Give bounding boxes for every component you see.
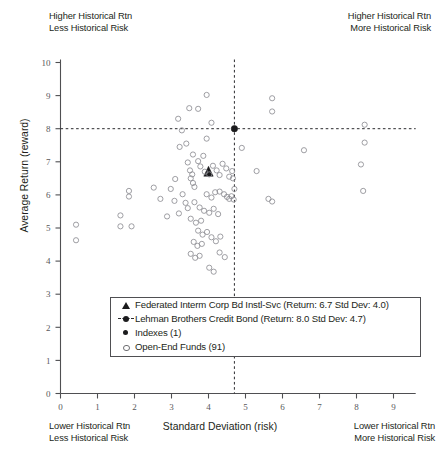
scatter-chart: Higher Historical Rtn Less Historical Ri…: [0, 0, 439, 463]
svg-text:3: 3: [46, 289, 51, 299]
svg-text:0: 0: [58, 402, 63, 412]
svg-text:5: 5: [243, 402, 248, 412]
legend: Federated Interm Corp Bd Instl-Svc (Retu…: [110, 297, 421, 357]
legend-item-label: Indexes (1): [135, 326, 181, 340]
plot-canvas: 012345678910 0123456789: [0, 0, 439, 463]
svg-text:1: 1: [95, 402, 100, 412]
legend-item: Indexes (1): [111, 326, 420, 340]
svg-text:8: 8: [46, 124, 51, 134]
svg-text:9: 9: [46, 91, 51, 101]
svg-text:8: 8: [354, 402, 359, 412]
svg-text:7: 7: [46, 157, 51, 167]
legend-item: Federated Interm Corp Bd Instl-Svc (Retu…: [111, 298, 420, 312]
svg-text:5: 5: [46, 223, 51, 233]
legend-item-label: Open-End Funds (91): [135, 340, 225, 354]
svg-text:2: 2: [132, 402, 137, 412]
svg-text:6: 6: [280, 402, 285, 412]
svg-text:7: 7: [317, 402, 322, 412]
legend-item-label: Federated Interm Corp Bd Instl-Svc (Retu…: [135, 298, 389, 312]
filled-dot-marker-icon: [117, 326, 135, 340]
svg-text:0: 0: [46, 389, 51, 399]
svg-text:9: 9: [391, 402, 396, 412]
data-points: [73, 92, 367, 274]
triangle-marker-icon: [117, 298, 135, 312]
y-axis-ticks: 012345678910: [42, 58, 61, 399]
crosshair-dot-marker-icon: [117, 312, 135, 326]
legend-item: Lehman Brothers Credit Bond (Return: 8.0…: [111, 312, 420, 326]
open-circle-marker-icon: [117, 340, 135, 354]
svg-text:4: 4: [46, 256, 51, 266]
legend-item: Open-End Funds (91): [111, 340, 420, 354]
svg-text:3: 3: [169, 402, 174, 412]
legend-item-label: Lehman Brothers Credit Bond (Return: 8.0…: [135, 312, 366, 326]
x-axis-ticks: 0123456789: [58, 394, 396, 412]
svg-text:10: 10: [42, 58, 52, 68]
svg-text:2: 2: [46, 323, 51, 333]
svg-text:6: 6: [46, 190, 51, 200]
svg-text:4: 4: [206, 402, 211, 412]
svg-text:1: 1: [46, 356, 51, 366]
